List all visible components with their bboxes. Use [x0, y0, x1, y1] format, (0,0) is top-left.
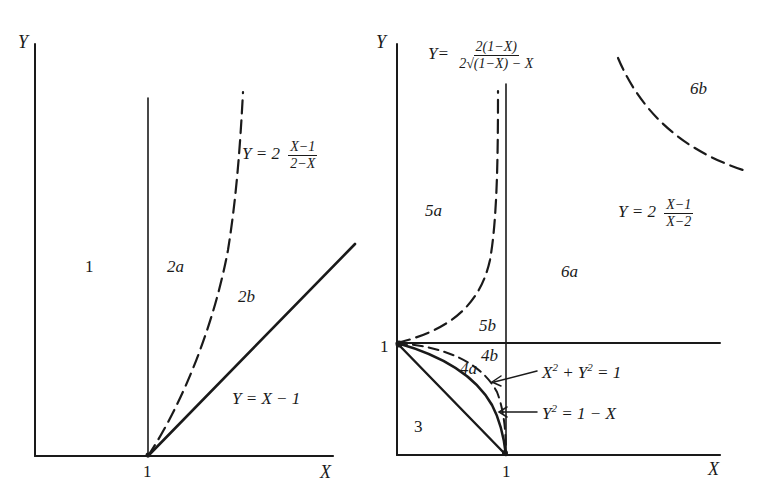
region-6b-label: 6b	[690, 80, 707, 97]
left-dashed-curve	[148, 92, 243, 456]
eq-rhs: = 1	[593, 363, 621, 382]
region-6a-label: 6a	[561, 263, 578, 280]
eq-denominator: 2√(1−X) − X	[457, 56, 535, 71]
curve-5-dashed	[397, 91, 498, 343]
eq-numerator: X−1	[664, 198, 693, 214]
eq-y: + Y	[558, 363, 587, 382]
curve-5-equation: Y= 2(1−X) 2√(1−X) − X	[428, 40, 535, 71]
region-2b-label: 2b	[238, 288, 255, 305]
eq-lhs: Y = 2	[618, 202, 656, 221]
left-tick-x1: 1	[143, 463, 152, 480]
eq-fraction: X−1 2−X	[288, 140, 317, 171]
region-5a-label: 5a	[425, 202, 442, 219]
eq-numerator: X−1	[288, 140, 317, 156]
eq-fraction: 2(1−X) 2√(1−X) − X	[457, 40, 535, 71]
eq-rhs: = 1 − X	[557, 404, 616, 423]
region-5b-label: 5b	[479, 317, 496, 334]
curve-6-equation: Y = 2 X−1 X−2	[618, 198, 693, 229]
curve-6-dashed	[618, 58, 746, 171]
parabola-equation: Y2 = 1 − X	[542, 403, 616, 422]
eq-x: X	[542, 363, 552, 382]
left-solid-line-equation: Y = X − 1	[232, 390, 300, 407]
corner-dot-right	[396, 341, 403, 348]
corner-dot-right-bottom	[502, 450, 508, 456]
eq-lhs: Y = 2	[242, 144, 280, 163]
region-4b-label: 4b	[481, 347, 498, 364]
right-tick-y1: 1	[380, 338, 389, 355]
eq-numerator: 2(1−X)	[474, 40, 519, 56]
region-1-label: 1	[85, 258, 94, 275]
left-x-axis-label: X	[320, 463, 331, 481]
region-3-label: 3	[414, 418, 423, 435]
right-x-axis-label: X	[708, 460, 719, 478]
right-y-axis-label: Y	[376, 33, 386, 51]
origin-dot-left	[146, 453, 151, 458]
circle-equation: X2 + Y2 = 1	[542, 362, 621, 381]
eq-denominator: 2−X	[288, 156, 317, 171]
left-dashed-curve-equation: Y = 2 X−1 2−X	[242, 140, 317, 171]
eq-denominator: X−2	[664, 214, 693, 229]
eq-lhs: Y=	[428, 44, 449, 63]
region-2a-label: 2a	[167, 258, 184, 275]
eq-fraction: X−1 X−2	[664, 198, 693, 229]
left-y-axis-label: Y	[18, 33, 28, 51]
diagram-lines	[0, 0, 765, 497]
diagram-stage: Y X 1 1 2a 2b Y = 2 X−1 2−X Y = X − 1 Y …	[0, 0, 765, 497]
region-4a-label: 4a	[460, 360, 477, 377]
right-tick-x1: 1	[502, 463, 511, 480]
